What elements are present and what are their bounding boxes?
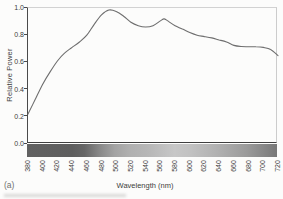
y-tick-label: 0.2: [8, 112, 24, 119]
spectrum-curve: [28, 8, 278, 144]
y-axis-title: Relative Power: [5, 48, 14, 101]
panel-label: (a): [4, 180, 14, 190]
y-tick-label: 0.8: [8, 31, 24, 38]
spectrum-gradient-bar: [27, 144, 277, 157]
x-axis-title: Wavelength (nm): [20, 181, 270, 190]
y-tick-label: 0.4: [8, 85, 24, 92]
y-tick-mark: [24, 115, 27, 116]
x-tick-label: 440: [68, 160, 75, 172]
x-tick-label: 640: [215, 160, 222, 172]
plot-area: [27, 7, 277, 143]
x-tick-label: 420: [53, 160, 60, 172]
y-tick-label: 1.0: [8, 4, 24, 11]
spectral-power-figure: Relative Power 1.00.80.60.40.20.0 380400…: [0, 0, 283, 199]
y-tick-mark: [24, 34, 27, 35]
scan-artifact: [4, 194, 126, 197]
x-tick-label: 400: [38, 160, 45, 172]
y-tick-label: 0.0: [8, 140, 24, 147]
x-tick-label: 560: [156, 160, 163, 172]
x-tick-label: 700: [259, 160, 266, 172]
x-tick-label: 520: [126, 160, 133, 172]
x-tick-label: 480: [97, 160, 104, 172]
x-tick-label: 580: [171, 160, 178, 172]
y-tick-mark: [24, 61, 27, 62]
x-tick-label: 540: [141, 160, 148, 172]
y-tick-mark: [24, 88, 27, 89]
x-tick-label: 660: [229, 160, 236, 172]
x-tick-label: 500: [112, 160, 119, 172]
y-tick-mark: [24, 7, 27, 8]
x-tick-label: 380: [24, 160, 31, 172]
x-tick-label: 620: [200, 160, 207, 172]
x-tick-label: 460: [82, 160, 89, 172]
x-tick-label: 680: [244, 160, 251, 172]
y-tick-label: 0.6: [8, 58, 24, 65]
x-tick-label: 720: [274, 160, 281, 172]
x-tick-label: 600: [185, 160, 192, 172]
